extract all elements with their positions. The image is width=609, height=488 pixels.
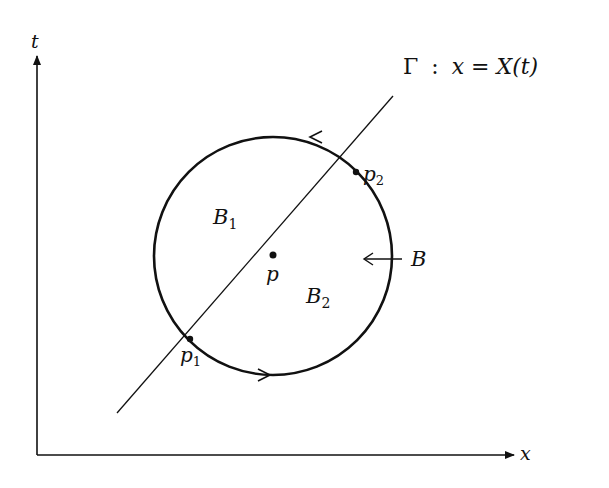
point-p2-label: p2 bbox=[363, 162, 384, 188]
gamma-equation: x = X(t) bbox=[452, 54, 539, 79]
spacetime-diagram: t x Γ : x = X(t) B1 B2 p p1 p2 B bbox=[0, 0, 609, 488]
point-p2 bbox=[353, 169, 359, 175]
t-axis-label: t bbox=[31, 30, 39, 52]
x-axis-label: x bbox=[520, 442, 531, 464]
point-p bbox=[270, 252, 277, 259]
gamma-colon: : bbox=[431, 54, 438, 79]
point-p2-sub: 2 bbox=[376, 173, 384, 188]
point-p2-base: p bbox=[363, 162, 376, 186]
region-b1-base: B bbox=[212, 205, 228, 229]
region-b2-sub: 2 bbox=[321, 295, 330, 311]
point-p1-sub: 1 bbox=[193, 354, 201, 369]
gamma-curve bbox=[117, 96, 393, 413]
point-p1-base: p bbox=[180, 343, 193, 367]
point-p-label: p bbox=[266, 262, 279, 286]
region-b1-sub: 1 bbox=[228, 216, 237, 232]
boundary-label: B bbox=[410, 247, 426, 271]
point-p1 bbox=[187, 336, 193, 342]
region-b2-base: B bbox=[305, 284, 321, 308]
region-b2-label: B2 bbox=[305, 284, 330, 311]
gamma-symbol: Γ bbox=[403, 54, 418, 79]
top-orientation-arrow-icon bbox=[310, 131, 322, 143]
gamma-label: Γ : x = X(t) bbox=[403, 54, 538, 79]
region-b1-label: B1 bbox=[212, 205, 237, 232]
